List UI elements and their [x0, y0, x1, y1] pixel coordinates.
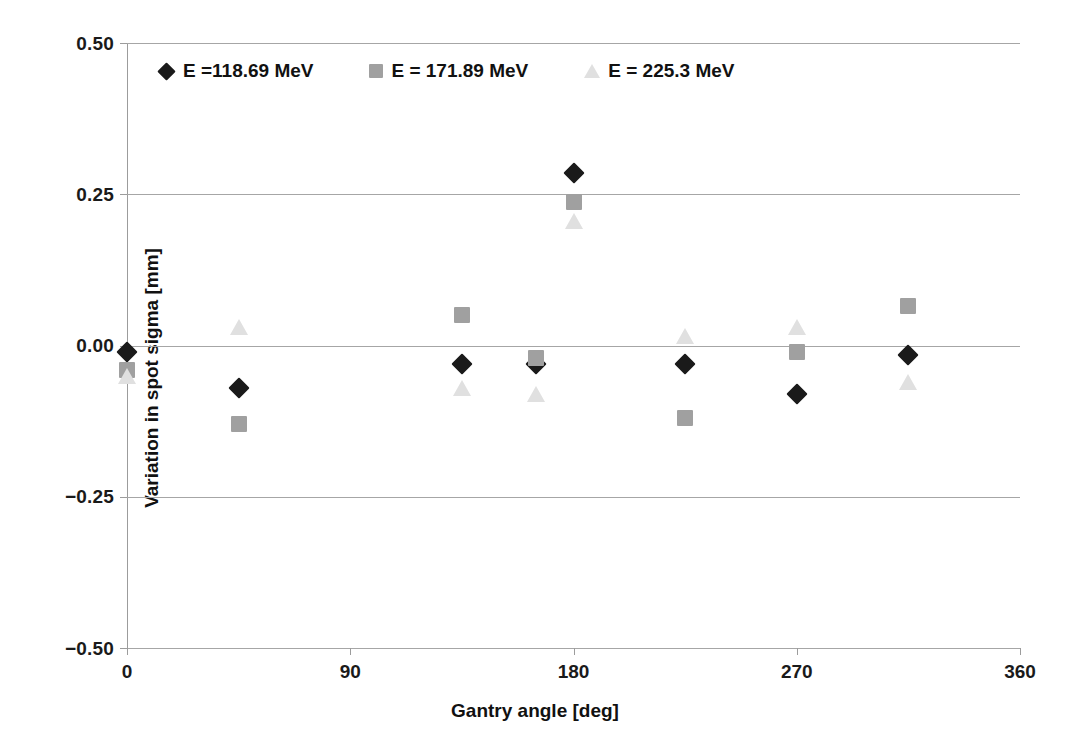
legend-marker-diamond-icon — [157, 62, 175, 80]
data-point-triangle — [788, 319, 806, 335]
plot-area: 0.500.250.00−0.25−0.50090180270360 — [127, 43, 1020, 648]
data-point-triangle — [565, 213, 583, 229]
data-point-triangle — [899, 374, 917, 390]
data-point-diamond — [228, 377, 249, 398]
data-point-triangle — [453, 380, 471, 396]
y-axis-tick — [120, 43, 127, 44]
y-axis-tick-label: 0.00 — [76, 335, 114, 357]
data-point-diamond — [563, 162, 584, 183]
y-axis-tick — [120, 194, 127, 195]
chart-legend: E =118.69 MeVE = 171.89 MeVE = 225.3 MeV — [160, 60, 734, 82]
legend-marker-triangle-icon — [584, 64, 600, 78]
x-axis-tick — [350, 648, 351, 655]
y-axis-tick-label: 0.25 — [76, 184, 114, 206]
legend-marker-square-icon — [369, 64, 383, 78]
legend-entry: E = 225.3 MeV — [584, 60, 734, 82]
x-axis-tick-label: 360 — [1004, 661, 1036, 683]
y-axis-tick — [120, 497, 127, 498]
data-point-square — [789, 344, 805, 360]
x-axis-tick-label: 0 — [122, 661, 133, 683]
data-point-square — [900, 298, 916, 314]
y-gridline — [127, 346, 1020, 347]
data-point-square — [231, 416, 247, 432]
x-axis-tick-label: 180 — [558, 661, 590, 683]
data-point-triangle — [230, 319, 248, 335]
data-point-diamond — [451, 353, 472, 374]
data-point-square — [528, 350, 544, 366]
data-point-triangle — [118, 368, 136, 384]
y-axis-tick-label: 0.50 — [76, 33, 114, 55]
scatter-chart: Variation in spot sigma [mm] 0.500.250.0… — [0, 0, 1070, 756]
y-gridline — [127, 497, 1020, 498]
data-point-square — [566, 194, 582, 210]
y-gridline — [127, 43, 1020, 44]
data-point-diamond — [786, 383, 807, 404]
y-axis-tick-label: −0.50 — [65, 638, 114, 660]
y-axis-tick — [120, 648, 127, 649]
legend-label: E =118.69 MeV — [183, 60, 313, 82]
x-axis-tick — [1020, 648, 1021, 655]
data-point-square — [677, 410, 693, 426]
x-axis-tick-label: 90 — [340, 661, 361, 683]
x-axis-tick — [127, 648, 128, 655]
x-axis-tick — [574, 648, 575, 655]
x-axis-title: Gantry angle [deg] — [0, 700, 1070, 722]
legend-label: E = 171.89 MeV — [391, 60, 528, 82]
data-point-diamond — [675, 353, 696, 374]
legend-entry: E = 171.89 MeV — [369, 60, 528, 82]
y-axis-tick-label: −0.25 — [65, 486, 114, 508]
data-point-triangle — [676, 328, 694, 344]
data-point-diamond — [898, 344, 919, 365]
legend-entry: E =118.69 MeV — [160, 60, 313, 82]
data-point-diamond — [116, 341, 137, 362]
x-axis-tick-label: 270 — [781, 661, 813, 683]
data-point-square — [454, 307, 470, 323]
x-axis-tick — [797, 648, 798, 655]
legend-label: E = 225.3 MeV — [608, 60, 734, 82]
data-point-triangle — [527, 386, 545, 402]
